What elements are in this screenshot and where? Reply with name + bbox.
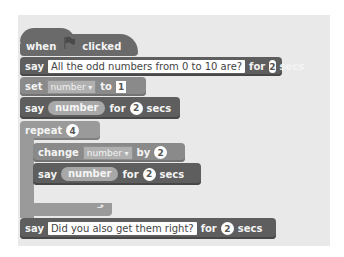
set-label: set <box>25 81 43 92</box>
say-for-secs-block[interactable]: say number for 2 secs <box>20 97 180 119</box>
for-label: for <box>249 61 265 72</box>
number-reporter[interactable]: number <box>61 167 119 181</box>
say-for-secs-block[interactable]: say All the odd numbers from 0 to 10 are… <box>20 57 282 76</box>
secs-label: secs <box>147 103 172 114</box>
say-for-secs-block[interactable]: say Did you also get them right? for 2 s… <box>20 218 276 239</box>
variable-dropdown[interactable]: number <box>83 146 133 160</box>
when-flag-clicked-block[interactable]: when clicked <box>20 34 138 56</box>
for-label: for <box>201 223 217 234</box>
secs-label: secs <box>238 223 263 234</box>
for-label: for <box>122 169 138 180</box>
say-label: say <box>38 169 57 180</box>
change-value-input[interactable]: 2 <box>154 146 167 159</box>
repeat-label: repeat <box>25 125 62 136</box>
loop-arrow-icon: ⬏ <box>96 202 104 212</box>
secs-label: secs <box>160 169 185 180</box>
say-label: say <box>25 103 44 114</box>
when-label: when <box>26 41 56 52</box>
secs-input[interactable]: 2 <box>221 222 234 235</box>
message-input[interactable]: All the odd numbers from 0 to 10 are? <box>48 60 245 73</box>
say-label: say <box>25 61 44 72</box>
secs-label: secs <box>280 61 305 72</box>
repeat-count-input[interactable]: 4 <box>66 124 79 137</box>
set-variable-block[interactable]: set number to 1 <box>20 77 146 96</box>
by-label: by <box>137 147 151 158</box>
change-label: change <box>38 147 79 158</box>
secs-input[interactable]: 2 <box>143 168 156 181</box>
variable-dropdown[interactable]: number <box>47 80 97 94</box>
for-label: for <box>109 103 125 114</box>
message-input[interactable]: Did you also get them right? <box>48 222 197 235</box>
secs-input[interactable]: 2 <box>269 60 275 73</box>
value-input[interactable]: 1 <box>116 81 126 93</box>
say-for-secs-block[interactable]: say number for 2 secs <box>33 163 201 185</box>
clicked-label: clicked <box>82 41 121 52</box>
say-label: say <box>25 223 44 234</box>
number-reporter[interactable]: number <box>48 101 106 115</box>
to-label: to <box>100 81 112 92</box>
change-variable-block[interactable]: change number by 2 <box>33 143 185 162</box>
repeat-block-bottom: ⬏ <box>20 203 112 216</box>
secs-input[interactable]: 2 <box>130 102 143 115</box>
green-flag-icon <box>62 36 76 52</box>
